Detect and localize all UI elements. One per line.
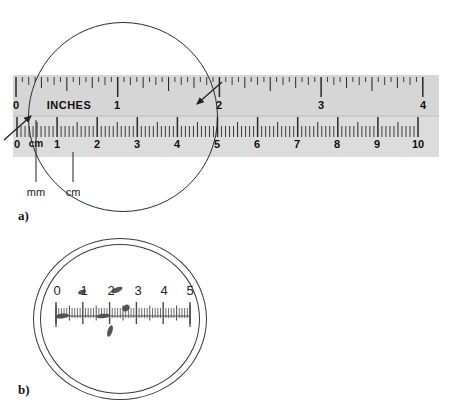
panel-caption-b: b) (18, 382, 30, 398)
mag-label-3: 3 (134, 283, 141, 299)
figure-ruler-magnifier: 0 1 2 3 4 INCHES 0 1 2 3 4 5 6 7 8 9 10 … (0, 0, 452, 415)
panel-caption-a: a) (18, 208, 29, 224)
magnifier-circle-outline (28, 22, 218, 212)
magnifier-label-row: 0 1 2 3 4 5 (0, 283, 452, 299)
inch-label-3: 3 (318, 98, 324, 112)
mag-label-2: 2 (107, 283, 114, 299)
cm-label-7: 7 (294, 137, 300, 151)
mag-label-1: 1 (80, 283, 87, 299)
label-cm: cm (66, 186, 81, 198)
mag-label-0: 0 (53, 283, 60, 299)
magnifier-inner-ring (40, 244, 200, 394)
mag-label-5: 5 (186, 283, 193, 299)
mag-label-4: 4 (160, 283, 167, 299)
cm-label-10: 10 (412, 137, 424, 151)
cm-label-9: 9 (374, 137, 380, 151)
inch-label-0: 0 (13, 98, 19, 112)
label-mm: mm (27, 186, 45, 198)
inch-label-4: 4 (420, 98, 426, 112)
cm-label-8: 8 (334, 137, 340, 151)
cm-label-0: 0 (14, 137, 20, 151)
cm-label-6: 6 (254, 137, 260, 151)
